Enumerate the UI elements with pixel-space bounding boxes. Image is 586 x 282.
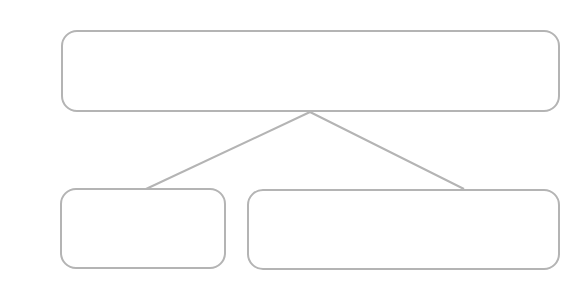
bottom-right-box	[247, 189, 560, 270]
top-box	[61, 30, 560, 112]
bottom-left-box	[60, 188, 226, 269]
